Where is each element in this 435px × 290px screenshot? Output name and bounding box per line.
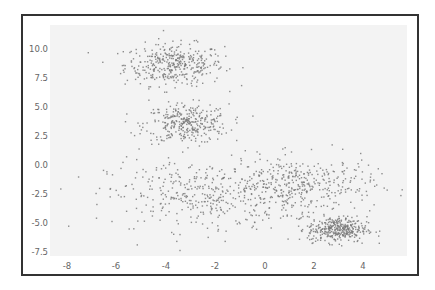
y-tick-label: -5.0: [18, 218, 48, 228]
plot-area: [50, 25, 407, 256]
y-tick-label: -2.5: [18, 189, 48, 199]
y-tick-label: 2.5: [18, 131, 48, 141]
y-tick-label: 7.5: [18, 73, 48, 83]
y-tick-label: -7.5: [18, 247, 48, 257]
x-tick-label: 2: [304, 261, 324, 271]
x-tick-label: -2: [205, 261, 225, 271]
x-tick-label: -4: [156, 261, 176, 271]
x-tick-label: 0: [255, 261, 275, 271]
y-tick-label: 10.0: [18, 44, 48, 54]
x-tick-label: -8: [57, 261, 77, 271]
x-tick-label: 4: [353, 261, 373, 271]
x-axis-tick-labels: -8 -6 -4 -2 0 2 4: [0, 261, 435, 275]
y-axis-tick-labels: 10.0 7.5 5.0 2.5 0.0 -2.5 -5.0 -7.5: [18, 0, 48, 290]
y-tick-label: 0.0: [18, 160, 48, 170]
scatter-points: [50, 25, 407, 256]
x-tick-label: -6: [106, 261, 126, 271]
y-tick-label: 5.0: [18, 102, 48, 112]
